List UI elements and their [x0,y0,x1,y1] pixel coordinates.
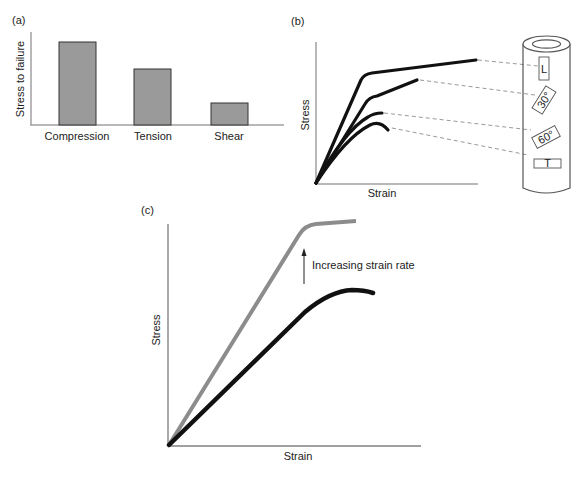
specimen-label-t: T [544,157,551,169]
panel-b: (b) Stress Strain L 30° [291,15,570,199]
specimen-label-l: L [541,63,547,75]
cylinder-top-inner [533,40,561,48]
bar-label-compression: Compression [45,130,110,142]
specimen-60deg: 60° [532,126,561,149]
panel-a-y-axis-label: Stress to failure [14,41,26,117]
leader-l [478,60,538,66]
panel-b-y-axis-label: Stress [299,99,311,131]
panel-c-label: (c) [141,204,154,216]
strain-rate-arrow [302,248,307,284]
panel-c: (c) Stress Strain Increasing strain rate [141,204,421,462]
specimen-t: T [534,157,561,169]
arrow-up-icon [302,248,307,256]
curve-30deg [316,80,417,183]
curve-high-strain-rate [169,221,356,445]
curve-l [316,60,476,183]
curve-low-strain-rate [169,290,373,445]
bar-label-shear: Shear [214,130,244,142]
panel-c-x-axis-label: Strain [284,450,313,462]
leader-lines [384,60,538,155]
figure: (a) Stress to failure Compression Tensio… [0,0,585,478]
bar-tension [134,69,171,125]
bar-compression [59,42,96,125]
leader-30deg [420,80,535,95]
panel-b-label: (b) [291,15,304,27]
bone-specimen-cylinder: L 30° 60° T [523,36,570,193]
leader-60deg [384,113,531,130]
leader-t [392,128,528,155]
bar-shear [211,103,248,125]
panel-c-y-axis-label: Stress [150,314,162,346]
bar-label-tension: Tension [134,130,172,142]
panel-a: (a) Stress to failure Compression Tensio… [12,14,284,142]
panel-a-label: (a) [12,14,25,26]
specimen-30deg: 30° [532,86,556,114]
panel-b-x-axis-label: Strain [368,187,397,199]
strain-rate-annotation: Increasing strain rate [312,259,415,271]
specimen-l: L [539,57,549,80]
